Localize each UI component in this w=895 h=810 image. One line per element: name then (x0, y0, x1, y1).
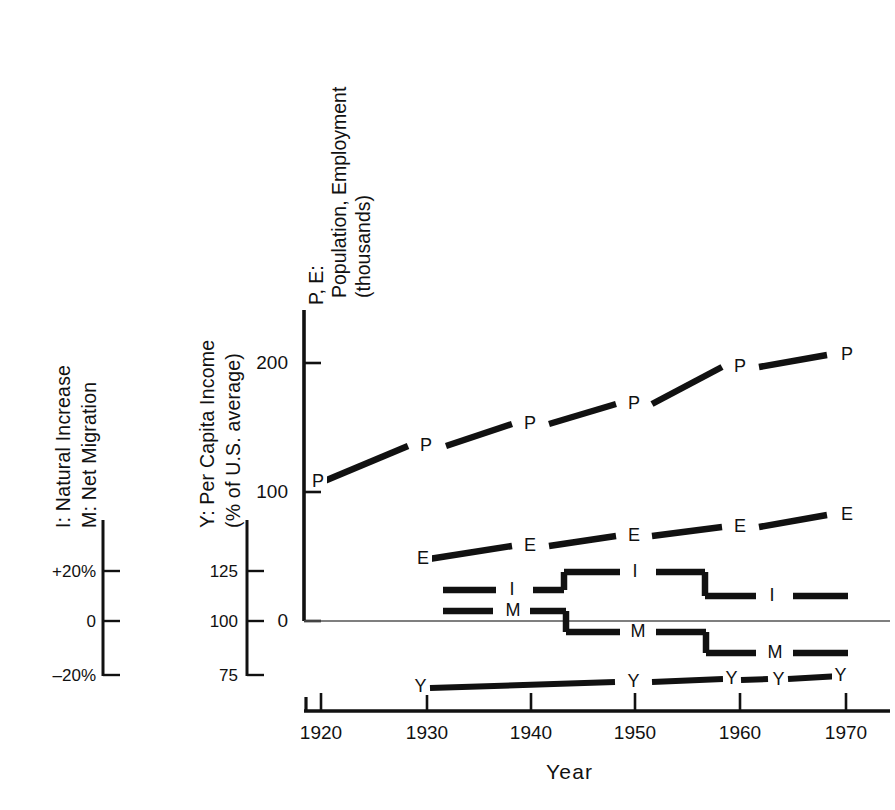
x-tick-label-1920: 1920 (286, 722, 356, 744)
y-tick-label-200: 200 (228, 352, 288, 374)
mini-scale-im-tick-plus20: +20% (28, 562, 96, 582)
mini-scale-im-tick-zero: 0 (28, 612, 96, 632)
mini-scale-im-tick-minus20: –20% (28, 666, 96, 686)
point-label-I-1930s: I (505, 580, 519, 598)
y-tick-label-100: 100 (228, 481, 288, 503)
point-label-M-1950s: M (765, 643, 785, 661)
point-label-I-1940s: I (628, 562, 642, 580)
legend-label-net-migration: M: Net Migration (78, 382, 101, 528)
point-label-E-1940: E (521, 536, 539, 554)
mini-scale-im-axis (98, 516, 158, 716)
legend-label-natural-increase: I: Natural Increase (52, 365, 75, 528)
x-tick-label-1940: 1940 (496, 722, 566, 744)
point-label-I-1960s: I (765, 586, 779, 604)
plot-canvas (290, 300, 895, 720)
point-label-M-1940s: M (628, 622, 648, 640)
x-tick-label-1950: 1950 (600, 722, 670, 744)
point-label-P-1970: P (838, 345, 856, 363)
mini-scale-y-tick-75: 75 (176, 666, 238, 686)
point-label-E-1960: E (731, 517, 749, 535)
x-tick-label-1970: 1970 (811, 722, 881, 744)
point-label-M-1930s: M (503, 601, 523, 619)
point-label-P-1920: P (309, 472, 327, 490)
x-tick-label-1930: 1930 (392, 722, 462, 744)
x-axis-title: Year (546, 760, 593, 784)
point-label-E-1970: E (838, 505, 856, 523)
x-tick-label-1960: 1960 (705, 722, 775, 744)
point-label-P-1940: P (521, 414, 539, 432)
series-P (322, 355, 827, 482)
point-label-Y-1950: Y (625, 672, 642, 690)
y-axis-title-line3: (thousands) (352, 195, 375, 298)
y-axis-title-line2: Population, Employment (328, 87, 351, 298)
point-label-Y-1970: Y (832, 666, 849, 684)
point-label-E-1930: E (414, 549, 432, 567)
figure-root: I: Natural Increase M: Net Migration Y: … (0, 0, 895, 810)
point-label-E-1950: E (625, 526, 643, 544)
point-label-Y-1965: Y (770, 670, 787, 688)
point-label-P-1950: P (625, 394, 643, 412)
series-I (443, 572, 848, 596)
y-tick-label-0: 0 (228, 610, 288, 632)
legend-label-per-capita-income: Y: Per Capita Income (196, 340, 219, 528)
point-label-P-1960: P (731, 357, 749, 375)
point-label-Y-1930: Y (412, 677, 429, 695)
mini-scale-y-tick-125: 125 (176, 562, 238, 582)
point-label-Y-1960: Y (723, 669, 740, 687)
point-label-P-1930: P (417, 436, 435, 454)
